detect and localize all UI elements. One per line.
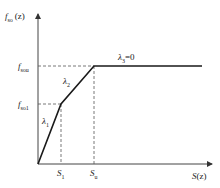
- segment-label-lambda3: λ3=0: [118, 53, 134, 64]
- y-axis-title: fso(z): [5, 12, 25, 23]
- y-tick-fso1: fso1: [18, 100, 29, 111]
- diagram-canvas: [0, 0, 220, 188]
- segment-label-lambda2: λ2: [63, 77, 70, 88]
- segment-label-lambda1: λ1: [42, 117, 49, 128]
- y-tick-fsou: fsou: [18, 62, 29, 73]
- x-tick-s1: S1: [57, 169, 65, 180]
- x-tick-su: Su: [90, 169, 98, 180]
- x-axis-title: S(z): [192, 172, 207, 181]
